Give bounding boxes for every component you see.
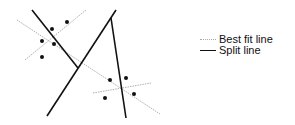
legend-item-split: Split line bbox=[200, 45, 273, 56]
split-line bbox=[111, 18, 126, 118]
split-line bbox=[47, 10, 116, 116]
data-point bbox=[50, 27, 54, 31]
data-point bbox=[132, 92, 136, 96]
data-point bbox=[52, 42, 56, 46]
legend: Best fit line Split line bbox=[200, 34, 273, 56]
data-point bbox=[65, 20, 69, 24]
data-point bbox=[40, 39, 44, 43]
split-lines bbox=[32, 10, 126, 118]
data-point bbox=[40, 55, 44, 59]
best-fit-line-swatch-icon bbox=[200, 39, 216, 40]
legend-label: Split line bbox=[219, 45, 261, 56]
best-fit-line bbox=[17, 20, 160, 114]
split-line-swatch-icon bbox=[200, 50, 216, 51]
split-diagram bbox=[0, 0, 295, 125]
best-fit-lines bbox=[17, 10, 160, 114]
data-point bbox=[124, 76, 128, 80]
data-point bbox=[103, 96, 107, 100]
split-line bbox=[32, 10, 78, 68]
data-point bbox=[108, 78, 112, 82]
best-fit-line bbox=[25, 10, 86, 60]
